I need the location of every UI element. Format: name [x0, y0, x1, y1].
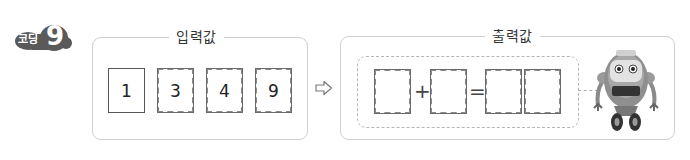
input-card-2: 3	[157, 68, 194, 113]
robot-icon	[592, 44, 660, 136]
output-slot-3[interactable]	[485, 69, 522, 114]
input-panel-title: 입력값	[169, 27, 224, 47]
input-card-1: 1	[108, 68, 145, 113]
input-card-4: 9	[255, 68, 292, 113]
hollow-right-arrow-icon	[315, 80, 333, 96]
plus-sign: +	[414, 81, 431, 101]
coding-badge: 코딩 9	[14, 24, 72, 52]
output-slot-2[interactable]	[430, 69, 467, 114]
input-card-3: 4	[206, 68, 243, 113]
equals-sign: =	[469, 81, 486, 101]
output-slot-1[interactable]	[374, 69, 411, 114]
badge-number: 9	[46, 21, 64, 51]
badge-label: 코딩	[18, 30, 37, 46]
output-panel-title: 출력값	[485, 26, 540, 46]
output-slot-4[interactable]	[524, 69, 561, 114]
